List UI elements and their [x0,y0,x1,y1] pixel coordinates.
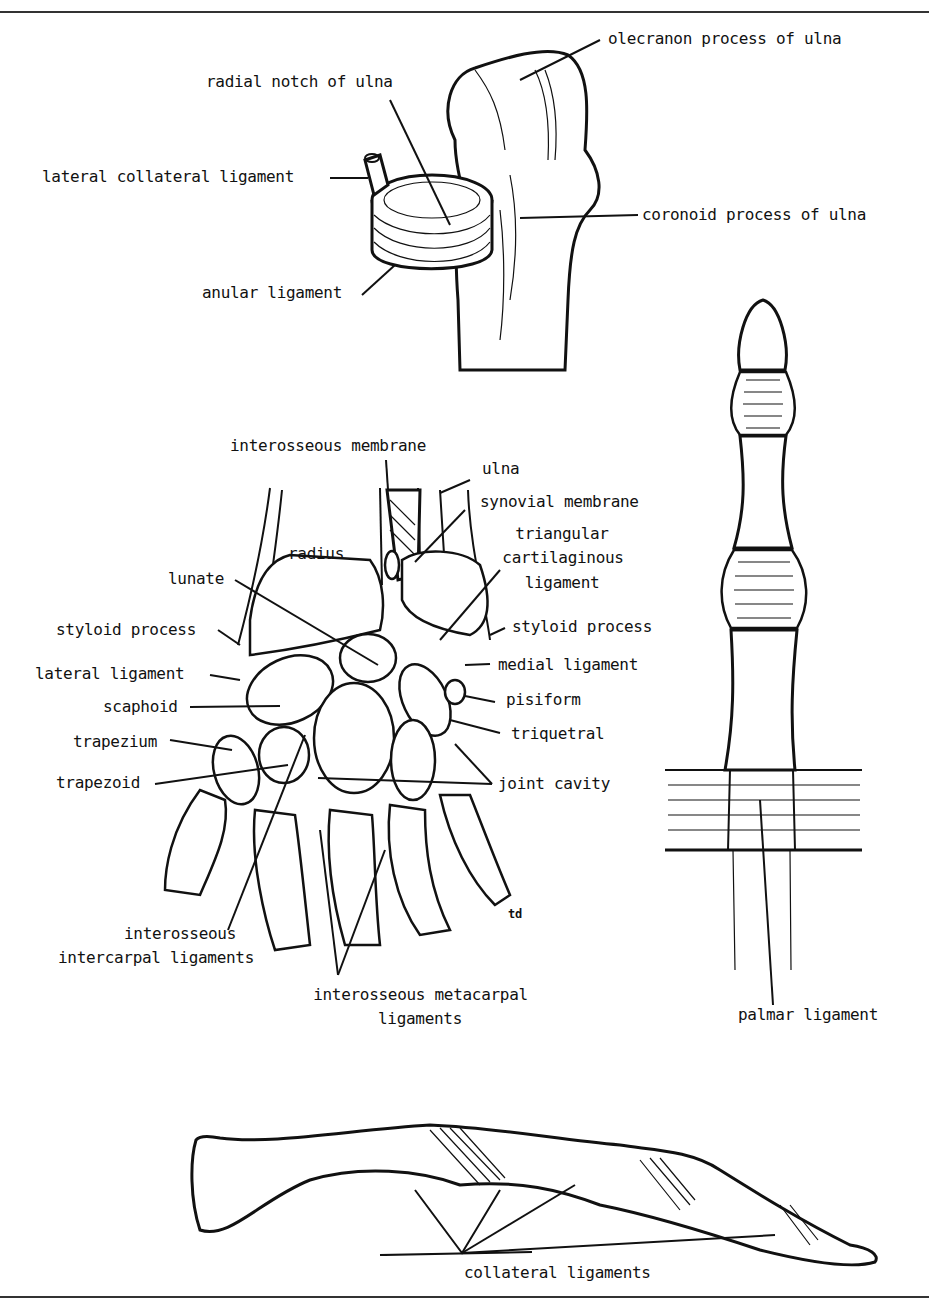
label-interosseous-intercarpal-ligaments-line1: interosseous [100,925,260,943]
label-trapezoid: trapezoid [56,774,140,792]
finger-side-drawing [192,1125,876,1265]
label-scaphoid: scaphoid [103,698,178,716]
label-triangular-cartilaginous-ligament-line1: triangular [502,525,622,543]
label-joint-cavity: joint cavity [498,775,610,793]
label-styloid-process-right: styloid process [512,618,652,636]
anatomy-illustration [0,0,929,1309]
finger-front-drawing [665,300,862,1005]
label-triquetral: triquetral [511,725,604,743]
label-medial-ligament: medial ligament [498,656,638,674]
label-lateral-collateral-ligament: lateral collateral ligament [42,168,294,186]
label-radius: radius [288,545,344,563]
label-interosseous-intercarpal-ligaments-line2: intercarpal ligaments [45,949,267,967]
label-pisiform: pisiform [506,691,581,709]
label-synovial-membrane: synovial membrane [480,493,639,511]
label-coronoid-process: coronoid process of ulna [642,206,866,224]
wrist-drawing [155,460,510,975]
label-interosseous-metacarpal-ligaments-line2: ligaments [350,1010,490,1028]
label-palmar-ligament: palmar ligament [738,1006,878,1024]
label-ulna: ulna [482,460,519,478]
label-collateral-ligaments: collateral ligaments [464,1264,651,1282]
label-trapezium: trapezium [73,733,157,751]
label-radial-notch: radial notch of ulna [206,73,393,91]
label-interosseous-membrane: interosseous membrane [230,437,426,455]
label-anular-ligament: anular ligament [202,284,342,302]
label-triangular-cartilaginous-ligament-line3: ligament [502,574,622,592]
label-olecranon-process: olecranon process of ulna [608,30,841,48]
artist-mark: td [508,905,522,923]
label-lateral-ligament: lateral ligament [35,665,184,683]
label-triangular-cartilaginous-ligament-line2: cartilaginous [488,549,638,567]
label-styloid-process-left: styloid process [56,621,196,639]
label-interosseous-metacarpal-ligaments-line1: interosseous metacarpal [298,986,543,1004]
label-lunate: lunate [168,570,224,588]
